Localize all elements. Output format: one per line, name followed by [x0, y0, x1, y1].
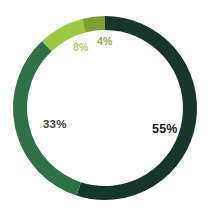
slice-label-55: 55% [152, 123, 178, 136]
donut-chart-svg [0, 0, 212, 219]
slice-label-33: 33% [43, 119, 67, 131]
donut-slice-55 [79, 23, 190, 193]
slice-label-4: 4% [97, 36, 113, 47]
donut-slice-4 [84, 23, 105, 26]
donut-chart: 55% 33% 8% 4% [0, 0, 212, 219]
slice-label-8: 8% [73, 42, 89, 53]
donut-slice-group [20, 23, 190, 193]
